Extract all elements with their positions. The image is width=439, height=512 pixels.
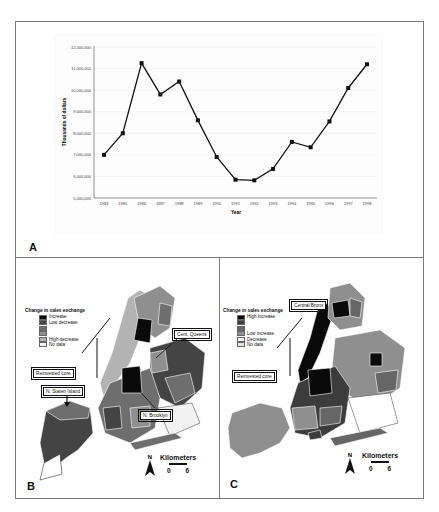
callout-n-brooklyn: N. Brooklyn (140, 411, 171, 420)
data-point-marker (140, 61, 144, 65)
x-tick-label: 1990 (212, 201, 222, 206)
legend-c: Change in sales exchange High increase L… (223, 308, 283, 348)
scale-bar-c: Kilometers 06 (362, 452, 398, 472)
y-tick-label: 12,000,000 (71, 45, 92, 50)
callout-reinvested-core-b: Reinvested core (33, 369, 74, 378)
legend-swatch (237, 331, 245, 336)
scale-title: Kilometers (362, 452, 398, 459)
scale-line (169, 463, 187, 465)
data-point-marker (177, 80, 181, 84)
x-tick-label: 1998 (363, 201, 373, 206)
x-tick-label: 1985 (118, 201, 128, 206)
legend-item: No data (25, 342, 85, 348)
north-arrow-icon: N (343, 451, 357, 475)
callout-n-staten-island: N. Staten Island (43, 387, 83, 396)
legend-swatch (237, 320, 245, 325)
data-point-marker (327, 119, 331, 123)
x-tick-label: 1987 (156, 201, 166, 206)
legend-swatch (237, 326, 245, 331)
legend-swatch (237, 315, 245, 320)
svg-text:N: N (148, 454, 152, 460)
y-tick-label: 7,000,000 (73, 152, 92, 157)
legend-swatch (39, 342, 47, 347)
data-point-marker (252, 178, 256, 182)
panel-letter-a: A (29, 241, 37, 253)
x-tick-label: 1993 (269, 201, 279, 206)
x-tick-label: 1991 (231, 201, 241, 206)
y-tick-label: 11,000,000 (71, 66, 91, 71)
scale-line (371, 461, 389, 463)
x-tick-label: 1995 (306, 201, 316, 206)
legend-swatch (39, 326, 47, 331)
y-axis-label: Thousands of dollars (62, 97, 67, 146)
x-tick-label: 1988 (175, 201, 185, 206)
y-tick-label: 5,000,000 (73, 196, 92, 201)
x-tick-label: 1994 (287, 201, 297, 206)
legend-swatch (237, 342, 245, 347)
x-tick-label: 1984 (100, 201, 110, 206)
data-point-marker (234, 178, 238, 182)
legend-swatch (237, 337, 245, 342)
data-point-marker (158, 92, 162, 96)
x-tick-label: 1989 (193, 201, 203, 206)
x-tick-label: 1997 (344, 201, 354, 206)
data-point-marker (365, 62, 369, 66)
legend-title: Change in sales exchange (223, 308, 283, 313)
x-axis-label: Year (231, 210, 241, 215)
north-arrow-icon: N (143, 453, 157, 477)
legend-swatch (39, 337, 47, 342)
x-axis-ticks: 1984198519861987198819891990199119921993… (100, 201, 373, 206)
panel-letter-b: B (27, 480, 35, 492)
y-tick-label: 6,000,000 (73, 174, 92, 179)
legend-swatch (39, 331, 47, 336)
legend-swatch (39, 320, 47, 325)
callout-cent-queens: Cent. Queens (174, 330, 210, 339)
data-point-marker (102, 153, 106, 157)
scale-title: Kilometers (160, 454, 196, 461)
data-point-marker (271, 167, 275, 171)
legend-title: Change in sales exchange (25, 308, 85, 313)
x-tick-label: 1992 (250, 201, 260, 206)
line-chart: 5,000,0006,000,0007,000,0008,000,0009,00… (0, 0, 439, 260)
data-point-marker (346, 86, 350, 90)
data-point-marker (290, 140, 294, 144)
staten-island (228, 403, 290, 458)
x-tick-label: 1986 (137, 201, 147, 206)
x-tick-label: 1996 (325, 201, 335, 206)
panel-letter-c: C (230, 478, 238, 490)
data-point-marker (121, 131, 125, 135)
y-tick-label: 10,000,000 (71, 88, 92, 93)
y-tick-label: 8,000,000 (73, 131, 92, 136)
callout-central-bronx: Central Bronx (291, 301, 326, 310)
y-tick-label: 9,000,000 (73, 109, 92, 114)
callout-reinvested-core-c: Reinvested core (234, 372, 275, 381)
data-point-marker (309, 145, 313, 149)
data-point-marker (196, 118, 200, 122)
data-point-marker (215, 155, 219, 159)
scale-bar-b: Kilometers 06 (160, 454, 196, 474)
legend-swatch (39, 315, 47, 320)
legend-b: Change in sales exchange Increase Low de… (25, 308, 85, 348)
legend-item: No data (223, 342, 283, 348)
svg-text:N: N (348, 452, 352, 458)
